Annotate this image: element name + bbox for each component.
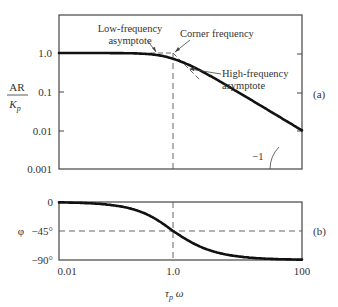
panel-label-b: (b)	[313, 225, 326, 238]
phase-angle-plot: 0 −45° −90° φ 0.01 1.0 100 τp ω (b)	[18, 196, 326, 302]
ytick-label-a: 1.0	[38, 47, 52, 59]
bode-diagram: 1.0 0.1 0.01 0.001 AR Kp −1 Low-frequenc…	[0, 0, 338, 307]
ytick-label-b: −45°	[31, 225, 53, 237]
low-frequency-asymptote-label: Low-frequency	[98, 23, 163, 34]
ytick-label-b: 0	[48, 196, 54, 208]
ylabel-kp: Kp	[8, 98, 20, 113]
xtick-label: 100	[294, 265, 311, 277]
ytick-label-a: 0.001	[27, 163, 52, 175]
ytick-label-a: 0.1	[38, 86, 52, 98]
slope-label: −1	[252, 151, 263, 162]
slope-angle-arc	[270, 147, 279, 169]
arrowhead	[175, 47, 180, 52]
panel-label-a: (a)	[313, 88, 326, 101]
amplitude-ratio-curve	[59, 53, 302, 130]
ylabel-phi: φ	[18, 225, 24, 237]
ylabel-ar: AR	[9, 81, 25, 93]
amplitude-ratio-plot: 1.0 0.1 0.01 0.001 AR Kp −1 Low-frequenc…	[7, 15, 326, 175]
corner-frequency-label: Corner frequency	[180, 28, 255, 39]
high-frequency-asymptote-label: High-frequency	[222, 68, 289, 79]
high-frequency-asymptote	[173, 53, 200, 80]
xlabel-tau-p-omega: τp ω	[165, 287, 184, 302]
high-frequency-asymptote-label-line2: asymptote	[222, 80, 265, 91]
xtick-label: 1.0	[166, 265, 180, 277]
ytick-label-b: −90°	[31, 254, 53, 266]
low-frequency-asymptote-label-line2: asymptote	[108, 35, 151, 46]
xtick-label: 0.01	[57, 265, 76, 277]
ytick-label-a: 0.01	[33, 125, 52, 137]
